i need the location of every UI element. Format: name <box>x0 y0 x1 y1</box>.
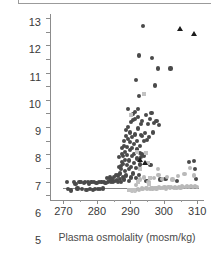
x-tick-label-270: 270 <box>54 206 72 217</box>
data-point-circle <box>122 177 126 181</box>
data-point-circle <box>69 188 73 192</box>
y-tick: 2 <box>46 168 50 169</box>
data-point-circle <box>138 144 142 148</box>
y-tick: 7 <box>46 100 50 101</box>
y-tick-label-12: 12 <box>29 44 41 55</box>
data-point-circle <box>132 161 136 165</box>
data-point-circle <box>193 167 197 171</box>
y-tick-label-6: 6 <box>35 207 41 218</box>
y-tick: 8 <box>46 86 50 87</box>
y-tick: 10 <box>46 59 50 60</box>
data-point-circle <box>137 94 141 98</box>
data-point-circle <box>150 56 154 60</box>
data-point-square <box>132 188 136 192</box>
data-point-circle <box>156 173 160 177</box>
data-point-circle <box>168 66 172 70</box>
y-tick: 13 <box>46 18 50 19</box>
x-tick <box>97 200 98 204</box>
data-point-circle <box>131 171 135 175</box>
data-point-circle <box>124 173 128 177</box>
data-point-circle <box>140 119 144 123</box>
y-tick-label-9: 9 <box>35 126 41 137</box>
x-axis-label: Plasma osmolality (mosm/kg) <box>50 231 204 243</box>
data-point-circle <box>75 186 79 190</box>
x-tick-minor <box>181 200 182 202</box>
data-point-square <box>147 182 151 186</box>
y-tick-label-5: 5 <box>35 235 41 246</box>
data-point-circle <box>165 175 169 179</box>
data-point-circle <box>156 66 160 70</box>
data-point-circle <box>133 132 137 136</box>
y-tick: 4 <box>46 141 50 142</box>
data-point-square <box>142 92 146 96</box>
x-tick-minor <box>147 200 148 202</box>
data-point-circle <box>182 172 186 176</box>
data-point-circle <box>135 139 139 143</box>
data-point-circle <box>127 158 131 162</box>
plot-area: 012345678910111213 270280290300310 <box>50 14 204 200</box>
x-tick <box>164 200 165 204</box>
data-point-circle <box>149 111 153 115</box>
x-tick <box>63 200 64 204</box>
figure-top-border <box>18 3 211 4</box>
x-tick-label-310: 310 <box>188 206 206 217</box>
data-point-circle <box>156 167 160 171</box>
data-point-circle <box>130 146 134 150</box>
y-tick-label-11: 11 <box>30 71 41 82</box>
data-point-circle <box>129 175 133 179</box>
data-point-circle <box>157 123 161 127</box>
figure: 012345678910111213 270280290300310 Plasm… <box>0 0 211 253</box>
data-point-square <box>135 150 139 154</box>
data-point-circle <box>144 113 148 117</box>
data-point-circle <box>147 135 151 139</box>
x-tick-label-290: 290 <box>121 206 139 217</box>
data-point-circle <box>126 107 130 111</box>
data-point-triangle <box>142 160 148 165</box>
data-point-square <box>138 167 142 171</box>
data-point-circle <box>195 185 199 189</box>
data-point-circle <box>65 180 69 184</box>
y-tick: 0 <box>46 195 50 196</box>
data-point-circle <box>148 117 152 121</box>
data-point-circle <box>176 174 180 178</box>
data-point-triangle <box>177 26 183 31</box>
y-tick-label-7: 7 <box>35 180 41 191</box>
data-point-circle <box>136 107 140 111</box>
data-point-square <box>136 180 140 184</box>
figure-top-border-cap <box>18 0 19 4</box>
data-point-circle <box>128 130 132 134</box>
y-tick-label-13: 13 <box>29 17 41 28</box>
x-tick-minor <box>80 200 81 202</box>
x-tick <box>197 200 198 204</box>
data-point-circle <box>153 83 157 87</box>
data-point-circle <box>146 122 150 126</box>
data-point-circle <box>187 160 191 164</box>
data-point-square <box>144 151 148 155</box>
y-tick: 3 <box>46 154 50 155</box>
y-tick: 9 <box>46 73 50 74</box>
y-tick: 1 <box>46 182 50 183</box>
data-point-circle <box>136 126 140 130</box>
y-tick: 11 <box>46 45 50 46</box>
data-point-circle <box>126 125 130 129</box>
x-tick-minor <box>114 200 115 202</box>
y-tick-label-10: 10 <box>29 98 41 109</box>
data-point-circle <box>129 165 133 169</box>
data-point-circle <box>137 53 141 57</box>
data-point-circle <box>170 177 174 181</box>
data-point-square <box>129 113 133 117</box>
data-point-circle <box>192 159 196 163</box>
x-tick <box>130 200 131 204</box>
data-point-circle <box>136 115 140 119</box>
data-point-circle <box>151 130 155 134</box>
y-tick: 6 <box>46 113 50 114</box>
data-point-circle <box>188 166 192 170</box>
x-tick-label-280: 280 <box>88 206 106 217</box>
data-point-circle <box>192 173 196 177</box>
data-point-circle <box>175 179 179 183</box>
data-point-square <box>148 176 152 180</box>
data-point-circle <box>141 24 145 28</box>
y-tick: 12 <box>46 32 50 33</box>
data-point-circle <box>160 177 164 181</box>
x-tick-label-300: 300 <box>155 206 173 217</box>
